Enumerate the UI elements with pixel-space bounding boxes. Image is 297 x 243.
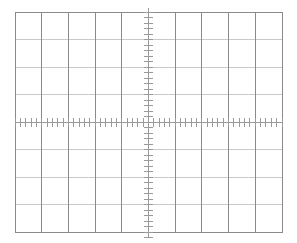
oscilloscope-graticule xyxy=(0,0,297,243)
graticule-canvas xyxy=(0,0,297,243)
